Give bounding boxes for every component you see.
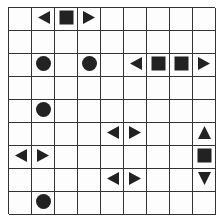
grid-cell[interactable] — [193, 54, 216, 77]
grid-cell[interactable] — [78, 146, 101, 169]
grid-cell[interactable] — [193, 169, 216, 192]
grid-cell[interactable] — [101, 8, 124, 31]
grid-cell[interactable] — [32, 100, 55, 123]
grid-cell[interactable] — [124, 31, 147, 54]
grid-cell[interactable] — [78, 100, 101, 123]
grid-cell[interactable] — [170, 8, 193, 31]
grid-cell[interactable] — [9, 192, 32, 215]
grid-cell[interactable] — [55, 77, 78, 100]
grid-cell[interactable] — [193, 146, 216, 169]
puzzle-grid — [8, 7, 215, 214]
grid-cell[interactable] — [9, 77, 32, 100]
ship-middle-icon — [197, 148, 212, 167]
grid-cell[interactable] — [55, 31, 78, 54]
grid-cell[interactable] — [55, 8, 78, 31]
grid-cell[interactable] — [147, 100, 170, 123]
submarine-icon — [82, 56, 97, 75]
grid-cell[interactable] — [124, 146, 147, 169]
grid-cell[interactable] — [101, 31, 124, 54]
grid-cell[interactable] — [101, 77, 124, 100]
grid-cell[interactable] — [193, 100, 216, 123]
grid-cell[interactable] — [32, 146, 55, 169]
ship-left-end-icon — [105, 171, 120, 190]
grid-cell[interactable] — [147, 146, 170, 169]
grid-cell[interactable] — [147, 54, 170, 77]
grid-cell[interactable] — [101, 54, 124, 77]
grid-cell[interactable] — [55, 123, 78, 146]
grid-cell[interactable] — [124, 100, 147, 123]
grid-cell[interactable] — [193, 8, 216, 31]
grid-cell[interactable] — [78, 169, 101, 192]
grid-cell[interactable] — [9, 31, 32, 54]
grid-cell[interactable] — [78, 77, 101, 100]
grid-cell[interactable] — [147, 169, 170, 192]
ship-right-end-icon — [82, 10, 97, 29]
ship-middle-icon — [174, 56, 189, 75]
grid-cell[interactable] — [78, 31, 101, 54]
grid-cell[interactable] — [147, 77, 170, 100]
grid-cell[interactable] — [9, 8, 32, 31]
grid-cell[interactable] — [193, 77, 216, 100]
ship-middle-icon — [151, 56, 166, 75]
grid-cell[interactable] — [147, 31, 170, 54]
grid-cell[interactable] — [170, 192, 193, 215]
grid-cell[interactable] — [55, 192, 78, 215]
grid-cell[interactable] — [55, 100, 78, 123]
grid-cell[interactable] — [147, 123, 170, 146]
grid-cell[interactable] — [9, 123, 32, 146]
grid-cell[interactable] — [32, 8, 55, 31]
ship-middle-icon — [59, 10, 74, 29]
grid-cell[interactable] — [9, 169, 32, 192]
grid-cell[interactable] — [124, 192, 147, 215]
grid-cell[interactable] — [193, 123, 216, 146]
grid-cell[interactable] — [9, 100, 32, 123]
grid-cell[interactable] — [170, 123, 193, 146]
grid-cell[interactable] — [32, 31, 55, 54]
ship-left-end-icon — [13, 148, 28, 167]
grid-cell[interactable] — [32, 192, 55, 215]
grid-cell[interactable] — [124, 54, 147, 77]
grid-cell[interactable] — [101, 192, 124, 215]
grid-cell[interactable] — [193, 31, 216, 54]
grid-cell[interactable] — [55, 169, 78, 192]
grid-cell[interactable] — [101, 100, 124, 123]
grid-cell[interactable] — [147, 192, 170, 215]
grid-cell[interactable] — [32, 77, 55, 100]
grid-cell[interactable] — [124, 169, 147, 192]
grid-cell[interactable] — [78, 8, 101, 31]
grid-cell[interactable] — [9, 146, 32, 169]
submarine-icon — [36, 102, 51, 121]
grid-cell[interactable] — [78, 54, 101, 77]
grid-cell[interactable] — [78, 192, 101, 215]
grid-cell[interactable] — [32, 54, 55, 77]
grid-cell[interactable] — [32, 123, 55, 146]
grid-cell[interactable] — [193, 192, 216, 215]
grid-cell[interactable] — [9, 54, 32, 77]
grid-cell[interactable] — [101, 123, 124, 146]
ship-left-end-icon — [36, 10, 51, 29]
ship-right-end-icon — [128, 125, 143, 144]
ship-left-end-icon — [105, 125, 120, 144]
grid-cell[interactable] — [78, 123, 101, 146]
grid-cell[interactable] — [101, 169, 124, 192]
grid-cell[interactable] — [170, 169, 193, 192]
grid-cell[interactable] — [170, 54, 193, 77]
grid-cell[interactable] — [55, 146, 78, 169]
grid-cell[interactable] — [170, 146, 193, 169]
grid-cell[interactable] — [124, 77, 147, 100]
ship-top-end-icon — [197, 125, 212, 144]
grid-cell[interactable] — [170, 31, 193, 54]
grid-cell[interactable] — [32, 169, 55, 192]
submarine-icon — [36, 56, 51, 75]
grid-cell[interactable] — [101, 146, 124, 169]
ship-left-end-icon — [128, 56, 143, 75]
grid-cell[interactable] — [170, 77, 193, 100]
grid-cell[interactable] — [124, 8, 147, 31]
grid-cell[interactable] — [55, 54, 78, 77]
grid-cell[interactable] — [124, 123, 147, 146]
grid-cell[interactable] — [170, 100, 193, 123]
grid-cell[interactable] — [147, 8, 170, 31]
ship-bottom-end-icon — [197, 171, 212, 190]
submarine-icon — [36, 194, 51, 213]
ship-right-end-icon — [128, 171, 143, 190]
